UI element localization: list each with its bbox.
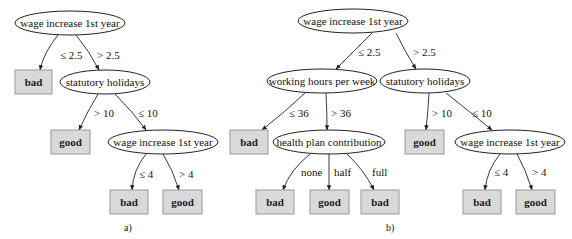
decision-node: wage increase 1st year	[108, 130, 218, 154]
edge-label: ≤ 36	[289, 107, 309, 119]
leaf-label: bad	[473, 196, 491, 208]
tree-edge: > 10	[79, 94, 114, 130]
decision-node: health plan contribution	[273, 130, 385, 154]
edge-label: > 10	[432, 107, 452, 119]
tree-edge: > 2.5	[76, 35, 120, 70]
decision-label: statutory holidays	[386, 75, 465, 87]
decision-label: statutory holidays	[66, 76, 145, 88]
edge-label: none	[301, 166, 323, 178]
decision-node: working hours per week	[267, 69, 377, 93]
edge-label: ≤ 4	[139, 168, 154, 180]
tree-edge: half	[329, 154, 351, 190]
edge-label: > 10	[94, 107, 114, 119]
tree-edge: > 4	[163, 154, 194, 190]
decision-label: wage increase 1st year	[113, 136, 213, 148]
tree-edge: ≤ 10	[446, 93, 492, 130]
edge-arrow	[163, 154, 179, 190]
tree-edge: ≤ 4	[485, 154, 509, 190]
tree-edge: ≤ 2.5	[40, 35, 83, 70]
leaf-label: bad	[240, 136, 258, 148]
leaf-label: good	[59, 136, 82, 148]
decision-node: wage increase 1st year	[298, 9, 408, 33]
tree-edge: > 10	[426, 93, 452, 130]
edge-arrow	[426, 93, 429, 130]
tree-edge: > 2.5	[396, 33, 436, 69]
leaf-label: bad	[371, 196, 389, 208]
decision-label: working hours per week	[269, 75, 376, 87]
leaf-label: good	[318, 196, 341, 208]
tree-edge: ≤ 2.5	[336, 33, 381, 69]
leaf-node: bad	[230, 130, 268, 154]
edge-label: ≤ 2.5	[60, 49, 83, 61]
decision-node: statutory holidays	[380, 69, 470, 93]
decision-node: wage increase 1st year	[455, 130, 565, 154]
edge-arrow	[326, 93, 327, 130]
leaf-node: bad	[361, 190, 399, 214]
tree-edge: ≤ 10	[115, 94, 158, 130]
decision-label: health plan contribution	[276, 136, 382, 148]
leaf-node: bad	[110, 190, 148, 214]
tree-edge: ≤ 4	[132, 154, 154, 190]
edge-label: ≤ 2.5	[358, 46, 381, 58]
edge-label: half	[334, 166, 351, 178]
leaf-node: good	[405, 130, 444, 154]
leaf-node: bad	[463, 190, 501, 214]
edge-label: > 2.5	[97, 49, 120, 61]
decision-tree-canvas: ≤ 2.5> 2.5> 10≤ 10≤ 4> 4≤ 2.5> 2.5≤ 36> …	[0, 0, 572, 239]
edge-label: ≤ 4	[494, 166, 509, 178]
leaf-node: good	[310, 190, 349, 214]
edges-layer: ≤ 2.5> 2.5> 10≤ 10≤ 4> 4≤ 2.5> 2.5≤ 36> …	[40, 33, 547, 190]
captions-layer: a)b)	[124, 222, 394, 234]
edge-label: ≤ 10	[138, 107, 158, 119]
decision-label: wage increase 1st year	[20, 17, 120, 29]
edge-label: ≤ 10	[472, 107, 492, 119]
leaf-node: good	[163, 190, 202, 214]
tree-edge: ≤ 36	[262, 93, 309, 130]
leaf-node: good	[516, 190, 555, 214]
edge-arrow	[40, 35, 58, 70]
tree-edge: none	[283, 154, 323, 190]
decision-label: wage increase 1st year	[460, 136, 560, 148]
edge-label: full	[372, 166, 387, 178]
decision-node: wage increase 1st year	[15, 11, 125, 35]
tree-edge: > 36	[326, 93, 351, 130]
tree-caption: a)	[124, 222, 132, 234]
edge-arrow	[517, 154, 532, 190]
decision-node: statutory holidays	[60, 70, 150, 94]
tree-edge: full	[347, 154, 387, 190]
decision-label: wage increase 1st year	[303, 15, 403, 27]
leaf-label: bad	[266, 196, 284, 208]
tree-a: ≤ 2.5> 2.5> 10≤ 10≤ 4> 4	[40, 35, 194, 190]
tree-caption: b)	[386, 222, 394, 234]
edge-label: > 2.5	[413, 46, 436, 58]
leaf-node: bad	[15, 70, 52, 94]
leaf-label: bad	[120, 196, 138, 208]
leaf-node: bad	[256, 190, 294, 214]
leaf-label: good	[524, 196, 547, 208]
edge-label: > 4	[532, 166, 547, 178]
leaf-label: good	[171, 196, 194, 208]
tree-edge: > 4	[517, 154, 547, 190]
leaf-label: good	[413, 136, 436, 148]
edge-label: > 36	[331, 107, 351, 119]
tree-b: ≤ 2.5> 2.5≤ 36> 36> 10≤ 10nonehalffull≤ …	[262, 33, 547, 190]
edge-label: > 4	[179, 168, 194, 180]
leaf-label: bad	[25, 76, 43, 88]
leaf-node: good	[51, 130, 90, 154]
